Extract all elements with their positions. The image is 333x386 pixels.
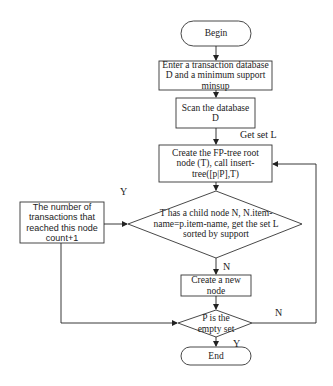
arrow-count-empty <box>61 243 177 323</box>
edge-label-yes-end: Y <box>233 338 240 349</box>
has-child-label: T has a child node N, N.item-name=p.item… <box>145 205 287 243</box>
create-new-node-label: Create a new node <box>184 275 248 296</box>
flowchart: Begin Enter a transaction database D and… <box>0 0 333 386</box>
count-increment-label: The number of transactions that reached … <box>21 202 103 243</box>
scan-database-label: Scan the database D <box>178 98 253 128</box>
begin-label: Begin <box>181 21 251 46</box>
edge-label-get-set-l: Get set L <box>240 129 277 140</box>
edge-label-yes-count: Y <box>120 186 127 197</box>
edge-label-no-loop: N <box>275 307 282 318</box>
empty-set-label: P is the empty set <box>192 311 240 336</box>
flowchart-shapes <box>0 0 333 386</box>
edge-label-no-create: N <box>223 261 230 272</box>
create-fp-tree-label: Create the FP-tree root node (T), call i… <box>162 145 269 182</box>
arrow-loop-back <box>252 164 316 323</box>
end-label: End <box>181 347 251 365</box>
enter-database-label: Enter a transaction database D and a min… <box>160 61 271 90</box>
